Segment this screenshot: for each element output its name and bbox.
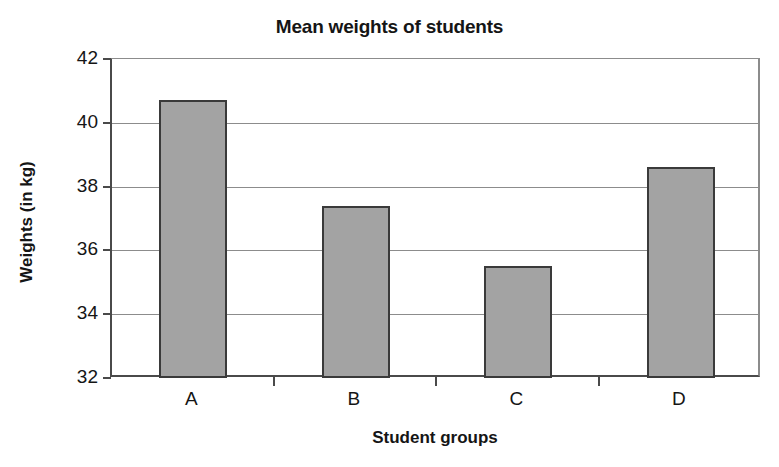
y-tick-label: 40 [52, 112, 98, 131]
chart-title: Mean weights of students [0, 16, 779, 38]
bar-a [159, 100, 227, 378]
y-tick-mark [103, 377, 111, 379]
x-axis-title: Student groups [110, 428, 760, 448]
y-axis-title: Weights (in kg) [17, 122, 37, 322]
x-tick-label-b: B [314, 388, 394, 410]
x-tick-mark [273, 377, 275, 386]
y-tick-label: 34 [52, 303, 98, 322]
y-tick-mark [103, 313, 111, 315]
y-tick-label: 36 [52, 239, 98, 258]
y-tick-label: 38 [52, 176, 98, 195]
y-tick-label: 32 [52, 367, 98, 386]
y-tick-label: 42 [52, 48, 98, 67]
bar-d [647, 167, 715, 378]
x-tick-mark [598, 377, 600, 386]
bar-b [322, 206, 390, 378]
y-tick-mark [103, 186, 111, 188]
x-tick-label-a: A [151, 388, 231, 410]
x-tick-label-c: C [476, 388, 556, 410]
x-tick-mark [435, 377, 437, 386]
y-tick-mark [103, 249, 111, 251]
y-tick-mark [103, 58, 111, 60]
y-tick-mark [103, 122, 111, 124]
x-tick-label-d: D [639, 388, 719, 410]
bar-c [484, 266, 552, 378]
plot-area [110, 58, 760, 377]
bar-chart-figure: Mean weights of students Weights (in kg)… [0, 0, 779, 467]
